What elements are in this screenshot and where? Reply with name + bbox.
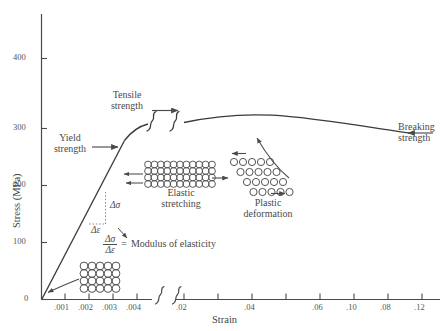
breaking-strength-line1: Breaking — [398, 121, 435, 132]
x-tick-008: .08 — [380, 303, 391, 312]
x-tick-0001: .001 — [54, 303, 69, 312]
unstressed-lattice — [80, 262, 120, 292]
curve-break-marks — [147, 112, 179, 132]
tensile-strength-line2: strength — [111, 100, 143, 111]
x-axis-title: Strain — [212, 314, 237, 325]
delta-sigma-label: Δσ — [110, 200, 120, 210]
y-tick-300: 300 — [13, 123, 26, 132]
x-tick-004: .04 — [244, 303, 255, 312]
y-axis — [42, 14, 48, 300]
breaking-strength-line2: strength — [398, 132, 430, 143]
modulus-equation: Δσ Δε = Modulus of elasticity — [103, 234, 216, 256]
x-tick-006: .06 — [312, 303, 323, 312]
curve-plastic — [184, 115, 410, 133]
fraction-numerator: Δσ — [103, 234, 117, 245]
stress-strain-figure: 0 100 200 300 400 Stress (MPa) .001 .002… — [0, 0, 448, 331]
unstressed-lattice-leader — [48, 279, 79, 293]
x-tick-010: .10 — [346, 303, 357, 312]
x-tick-0004: .004 — [126, 303, 141, 312]
elastic-line1: Elastic — [167, 187, 194, 198]
y-tick-0: 0 — [24, 294, 28, 303]
y-tick-400: 400 — [13, 53, 26, 62]
x-tick-0002: .002 — [78, 303, 93, 312]
equals-sign: = — [121, 239, 127, 250]
modulus-of-elasticity-text: Modulus of elasticity — [131, 239, 216, 250]
curve-yield-bend — [125, 124, 149, 141]
tensile-strength-line1: Tensile — [113, 89, 142, 100]
plastic-deformation-label: Plastic deformation — [232, 198, 304, 220]
x-axis — [42, 294, 441, 300]
fraction-denominator: Δε — [103, 245, 117, 255]
modulus-fraction: Δσ Δε — [103, 234, 117, 256]
x-tick-012: .12 — [414, 303, 425, 312]
elastic-line2: stretching — [161, 198, 200, 209]
y-tick-100: 100 — [13, 237, 26, 246]
slope-triangle — [89, 192, 106, 224]
yield-strength-line1: Yield — [59, 132, 81, 143]
plastic-line2: deformation — [244, 208, 293, 219]
yield-strength-line2: strength — [54, 143, 86, 154]
x-tick-002: .02 — [176, 303, 187, 312]
elastic-stretching-label: Elastic stretching — [150, 188, 212, 210]
tensile-strength-label: Tensile strength — [99, 90, 155, 112]
x-tick-0003: .003 — [102, 303, 117, 312]
stress-strain-plot — [0, 0, 448, 331]
yield-strength-label: Yield strength — [44, 133, 96, 155]
plastic-line1: Plastic — [255, 197, 282, 208]
breaking-strength-label: Breaking strength — [398, 122, 448, 144]
elastic-stretched-lattice — [145, 161, 216, 187]
y-axis-title: Stress (MPa) — [11, 173, 22, 228]
delta-epsilon-label: Δε — [91, 225, 100, 235]
plastic-sheared-lattice — [230, 158, 293, 195]
